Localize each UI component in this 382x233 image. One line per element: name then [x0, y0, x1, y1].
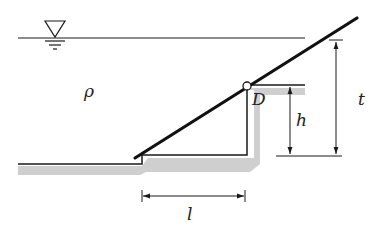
water-level-icon: [45, 21, 65, 49]
density-label: ρ: [83, 81, 94, 101]
dimension-t: [329, 40, 343, 154]
hinge-label: D: [251, 89, 266, 109]
dimension-l: [142, 190, 245, 202]
bed-line: [18, 86, 247, 164]
hinge-icon: [243, 82, 251, 90]
gate-diagram: ρ D h t l: [0, 0, 382, 233]
depth-t-label: t: [358, 89, 365, 109]
height-h-label: h: [296, 110, 307, 130]
length-l-label: l: [187, 204, 192, 224]
